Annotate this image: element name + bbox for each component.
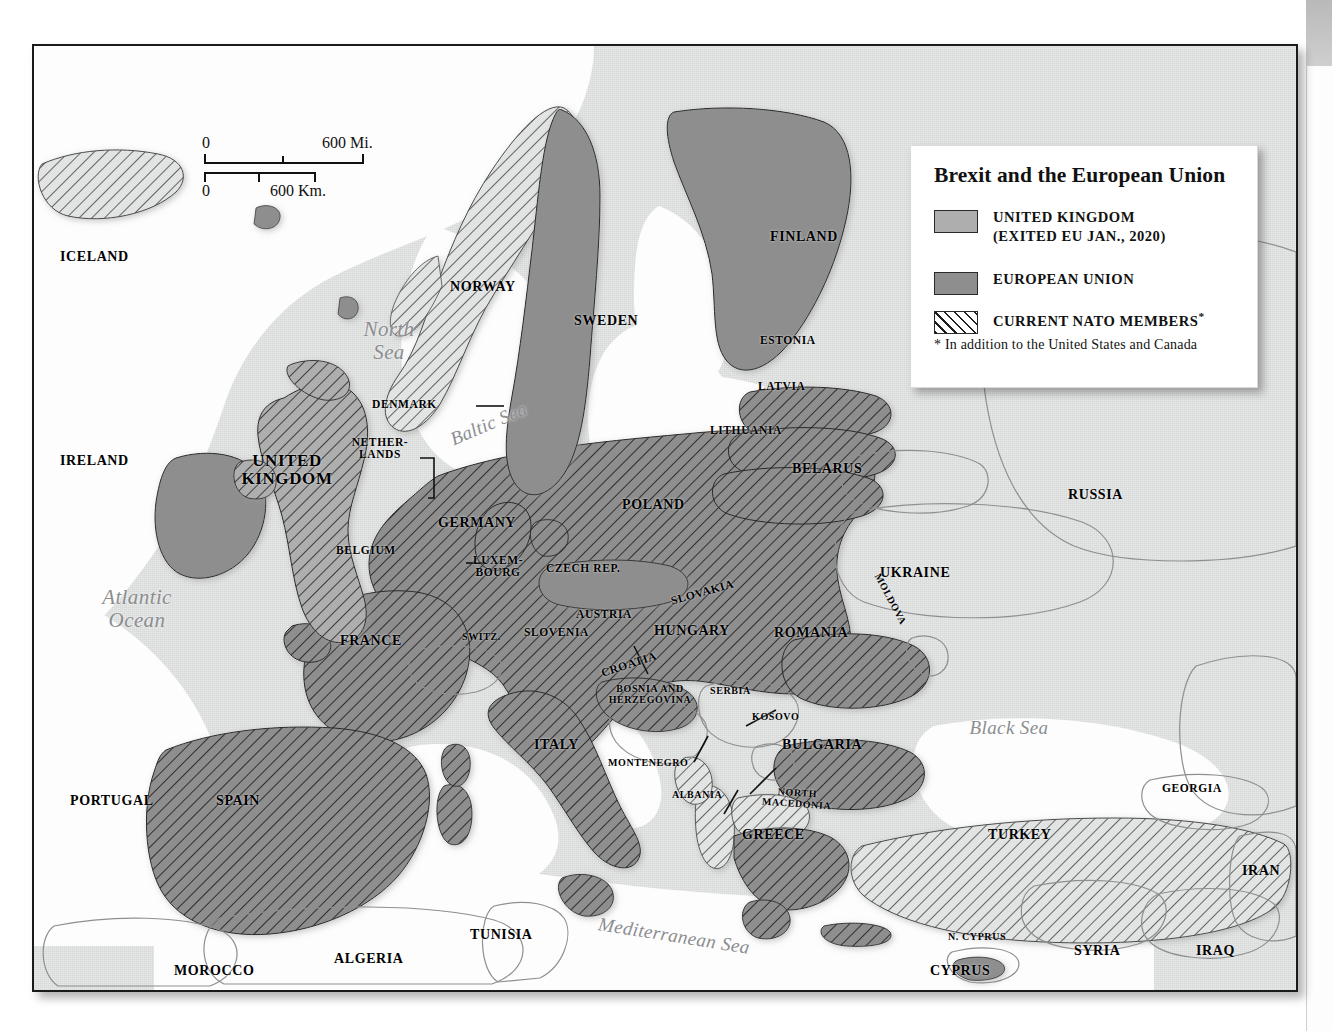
label-united-kingdom: UNITEDKINGDOM xyxy=(222,452,352,488)
label-black-sea: Black Sea xyxy=(944,718,1074,739)
leader-montenegro xyxy=(694,736,708,762)
label-bosnia: BOSNIA ANDHERZEGOVINA xyxy=(590,684,710,705)
scale-bar: 0 600 Mi. 0 600 Km. xyxy=(202,134,417,206)
legend-nato-label: CURRENT NATO MEMBERS xyxy=(993,313,1198,329)
label-ukraine: UKRAINE xyxy=(880,566,950,581)
scale-km-max: 600 Km. xyxy=(270,182,326,200)
label-north-sea: NorthSea xyxy=(334,318,444,364)
scale-km-zero: 0 xyxy=(202,182,210,200)
label-russia: RUSSIA xyxy=(1068,488,1123,503)
scan-artifact-top-right xyxy=(1306,0,1332,66)
label-montenegro: MONTENEGRO xyxy=(608,758,688,769)
legend-nato-text: CURRENT NATO MEMBERS* xyxy=(993,309,1205,331)
label-algeria: ALGERIA xyxy=(334,952,404,967)
label-norway: NORWAY xyxy=(450,280,516,295)
label-belarus: BELARUS xyxy=(792,462,862,477)
label-serbia: SERBIA xyxy=(710,686,751,697)
label-sweden: SWEDEN xyxy=(574,314,638,329)
legend-row-nato: CURRENT NATO MEMBERS* xyxy=(934,309,1205,334)
label-ireland: IRELAND xyxy=(60,454,129,469)
label-iraq: IRAQ xyxy=(1196,944,1235,959)
scale-miles-tick-mid xyxy=(282,156,284,164)
label-belgium: BELGIUM xyxy=(336,544,396,556)
label-bulgaria: BULGARIA xyxy=(782,738,862,753)
shape-great-britain xyxy=(258,383,368,642)
scale-miles-max: 600 Mi. xyxy=(322,134,373,152)
scale-miles-tick-end xyxy=(362,154,364,164)
scale-miles-zero: 0 xyxy=(202,134,210,152)
eu-swatch xyxy=(934,272,978,295)
label-iceland: ICELAND xyxy=(60,250,129,265)
label-romania: ROMANIA xyxy=(774,626,848,641)
legend-title: Brexit and the European Union xyxy=(934,163,1225,188)
shape-sardinia xyxy=(437,784,472,844)
label-italy: ITALY xyxy=(534,738,579,753)
label-switzerland: SWITZ. xyxy=(462,632,501,643)
label-hungary: HUNGARY xyxy=(654,624,730,639)
label-austria: AUSTRIA xyxy=(576,608,632,620)
label-poland: POLAND xyxy=(622,498,685,513)
label-n-cyprus: N. CYPRUS xyxy=(948,932,1006,943)
legend-row-eu: EUROPEAN UNION xyxy=(934,270,1134,295)
label-morocco: MOROCCO xyxy=(174,964,254,979)
label-lithuania: LITHUANIA xyxy=(710,424,782,436)
footnote-asterisk: * xyxy=(934,337,941,352)
label-portugal: PORTUGAL xyxy=(70,794,154,809)
label-estonia: ESTONIA xyxy=(760,334,816,346)
label-denmark: DENMARK xyxy=(372,398,437,410)
label-germany: GERMANY xyxy=(438,516,516,531)
nato-swatch xyxy=(934,311,978,334)
label-spain: SPAIN xyxy=(216,794,260,809)
map-frame: NorthSea Baltic Sea AtlanticOcean Medite… xyxy=(32,44,1298,992)
scale-km-line xyxy=(204,172,316,174)
shape-shetland xyxy=(338,297,358,319)
label-georgia: GEORGIA xyxy=(1162,782,1222,794)
label-greece: GREECE xyxy=(742,828,805,843)
label-iran: IRAN xyxy=(1242,864,1280,879)
scale-miles-line xyxy=(204,162,364,164)
label-turkey: TURKEY xyxy=(988,828,1052,843)
shape-orkney xyxy=(254,206,280,229)
map-legend: Brexit and the European Union UNITED KIN… xyxy=(910,145,1258,388)
shape-peloponnese xyxy=(742,900,790,939)
legend-uk-line2: (EXITED EU JAN., 2020) xyxy=(993,228,1166,244)
label-france: FRANCE xyxy=(340,634,402,649)
uk-swatch xyxy=(934,210,978,233)
label-tunisia: TUNISIA xyxy=(470,928,533,943)
label-latvia: LATVIA xyxy=(758,380,805,392)
label-syria: SYRIA xyxy=(1074,944,1121,959)
legend-footnote: * In addition to the United States and C… xyxy=(934,337,1197,353)
label-netherlands: NETHER-LANDS xyxy=(340,436,420,460)
label-albania: ALBANIA xyxy=(672,790,722,801)
scale-miles-tick-0 xyxy=(204,154,206,164)
label-luxembourg: LUXEM-BOURG xyxy=(456,554,540,578)
label-cyprus: CYPRUS xyxy=(930,964,990,979)
label-slovenia: SLOVENIA xyxy=(524,626,589,638)
legend-nato-asterisk: * xyxy=(1198,310,1204,322)
shape-denmark-isles xyxy=(530,520,568,557)
label-czech-rep: CZECH REP. xyxy=(546,562,621,574)
label-finland: FINLAND xyxy=(770,230,838,245)
footnote-text: In addition to the United States and Can… xyxy=(945,337,1197,352)
scale-km-tick-0 xyxy=(204,172,206,182)
label-atlantic-ocean: AtlanticOcean xyxy=(72,586,202,632)
scan-margin-right xyxy=(1306,66,1333,1031)
scale-km-tick-mid xyxy=(258,174,260,182)
label-kosovo: KOSOVO xyxy=(752,712,799,723)
border-ukraine xyxy=(835,504,1113,618)
legend-uk-text: UNITED KINGDOM (EXITED EU JAN., 2020) xyxy=(993,208,1166,247)
shape-crete xyxy=(821,923,891,946)
legend-eu-text: EUROPEAN UNION xyxy=(993,270,1134,289)
scale-km-tick-end xyxy=(314,172,316,182)
legend-uk-line1: UNITED KINGDOM xyxy=(993,209,1135,225)
legend-row-uk: UNITED KINGDOM (EXITED EU JAN., 2020) xyxy=(934,208,1166,247)
shape-corsica xyxy=(441,744,470,786)
